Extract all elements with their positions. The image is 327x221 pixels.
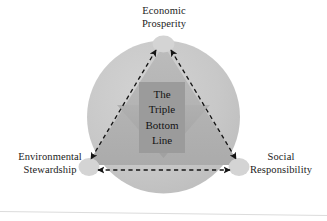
vertex-label-environmental-line-1: Environmental (2, 151, 98, 164)
center-title-line-2: Triple (149, 102, 176, 118)
vertex-label-social-line-1: Social (236, 151, 326, 164)
center-title-line-1: The (153, 87, 170, 103)
triple-bottom-line-diagram: The Triple Bottom Line Economic Prosperi… (0, 0, 327, 221)
vertex-label-environmental: Environmental Stewardship (2, 151, 98, 176)
vertex-label-social-line-2: Responsibility (236, 164, 326, 177)
center-title-line-3: Bottom (145, 118, 178, 134)
vertex-label-environmental-line-2: Stewardship (2, 164, 98, 177)
vertex-label-economic: Economic Prosperity (113, 5, 215, 30)
vertex-label-economic-line-2: Prosperity (113, 18, 215, 31)
vertex-label-social: Social Responsibility (236, 151, 326, 176)
vertex-label-economic-line-1: Economic (113, 5, 215, 18)
center-title-line-4: Line (152, 133, 172, 149)
center-box: The Triple Bottom Line (139, 82, 185, 153)
